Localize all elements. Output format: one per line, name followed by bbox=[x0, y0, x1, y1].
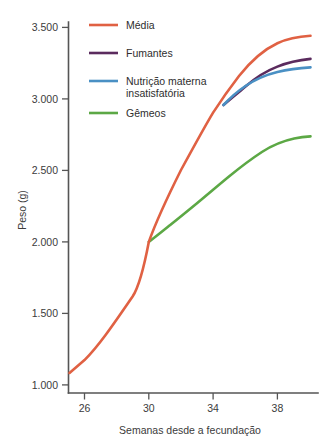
legend-label-nutricao-line2: insatisfatória bbox=[126, 87, 185, 99]
legend-label-fumantes: Fumantes bbox=[126, 47, 173, 59]
weight-gestation-line-chart: 3.500 3.000 2.500 2.000 1.500 1.000 26 3… bbox=[0, 0, 321, 443]
legend-label-media: Média bbox=[126, 19, 155, 31]
legend-label-gemeos: Gêmeos bbox=[126, 107, 166, 119]
x-tick-label: 34 bbox=[207, 402, 219, 414]
chart-background bbox=[0, 0, 321, 443]
y-axis-title: Peso (g) bbox=[16, 190, 28, 230]
y-tick-label: 1.500 bbox=[32, 307, 58, 319]
legend-label-nutricao: Nutrição materna bbox=[126, 75, 207, 87]
y-tick-label: 3.500 bbox=[32, 21, 58, 33]
y-tick-label: 2.500 bbox=[32, 164, 58, 176]
y-tick-label: 1.000 bbox=[32, 379, 58, 391]
y-tick-label: 2.000 bbox=[32, 236, 58, 248]
y-tick-label: 3.000 bbox=[32, 93, 58, 105]
x-tick-label: 30 bbox=[143, 402, 155, 414]
x-tick-label: 26 bbox=[79, 402, 91, 414]
x-tick-label: 38 bbox=[272, 402, 284, 414]
x-axis-title: Semanas desde a fecundação bbox=[119, 424, 261, 436]
